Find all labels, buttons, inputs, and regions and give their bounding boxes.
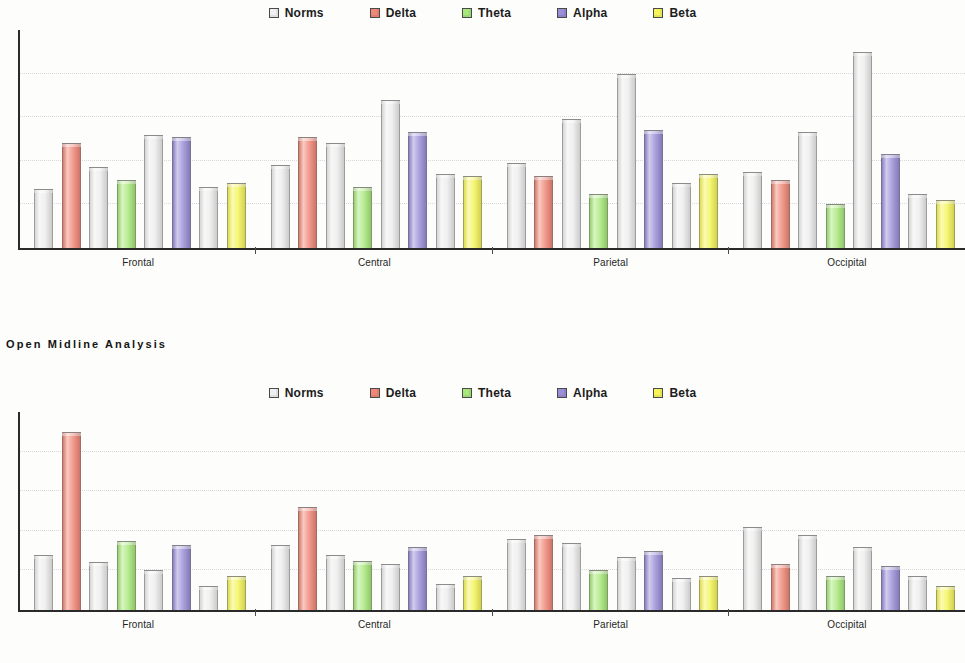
bar-alpha-frontal — [172, 137, 191, 248]
x-axis-label-central: Central — [256, 619, 492, 630]
bar-wrap — [904, 30, 932, 248]
bar-alpha-central — [408, 132, 427, 248]
bar-norms-parietal-delta — [507, 163, 526, 248]
midline-analysis-chart-1: Norms Delta Theta Alpha Beta FrontalCent… — [0, 0, 965, 275]
legend-item-alpha: Alpha — [557, 6, 607, 20]
bar-wrap — [876, 412, 904, 610]
bar-group-occipital: Occipital — [729, 30, 965, 248]
axis-tick — [728, 609, 729, 616]
bar-theta-parietal — [589, 194, 608, 249]
bar-wrap — [431, 412, 459, 610]
bar-wrap — [168, 412, 196, 610]
bar-wrap — [640, 30, 668, 248]
bar-wrap — [503, 412, 531, 610]
bar-wrap — [113, 412, 141, 610]
axis-tick — [492, 609, 493, 616]
bar-norms-central-alpha — [381, 100, 400, 248]
legend-label-alpha: Alpha — [573, 386, 607, 400]
bar-wrap — [668, 412, 696, 610]
bar-delta-occipital — [771, 564, 790, 610]
bar-wrap — [140, 412, 168, 610]
bar-wrap — [931, 30, 959, 248]
bar-alpha-occipital — [881, 154, 900, 248]
bar-wrap — [613, 30, 641, 248]
bar-delta-occipital — [771, 180, 790, 248]
bar-wrap — [766, 30, 794, 248]
bar-norms-central-theta — [326, 555, 345, 610]
bar-norms-central-beta — [436, 584, 455, 610]
bar-group-frontal: Frontal — [20, 412, 256, 610]
bar-theta-parietal — [589, 570, 608, 610]
legend-item-theta: Theta — [462, 6, 511, 20]
bar-wrap — [113, 30, 141, 248]
bars — [493, 412, 729, 610]
bar-wrap — [349, 412, 377, 610]
legend-swatch-theta — [462, 388, 472, 398]
bar-wrap — [140, 30, 168, 248]
bar-beta-frontal — [227, 183, 246, 248]
bar-norms-frontal-delta — [34, 189, 53, 248]
bar-beta-occipital — [936, 586, 955, 610]
bar-wrap — [821, 412, 849, 610]
legend-item-norms: Norms — [269, 386, 324, 400]
bar-wrap — [931, 412, 959, 610]
chart-2-plot-area: FrontalCentralParietalOccipital — [18, 412, 965, 612]
bar-wrap — [321, 412, 349, 610]
bar-wrap — [794, 412, 822, 610]
bar-norms-central-alpha — [381, 564, 400, 610]
legend-item-beta: Beta — [653, 6, 696, 20]
bars — [20, 412, 256, 610]
bars — [729, 412, 965, 610]
x-axis-label-frontal: Frontal — [20, 619, 256, 630]
bar-norms-frontal-alpha — [144, 135, 163, 248]
legend-label-theta: Theta — [478, 6, 511, 20]
legend-item-delta: Delta — [370, 386, 416, 400]
bar-alpha-parietal — [644, 551, 663, 610]
bar-norms-occipital-theta — [798, 535, 817, 610]
legend-swatch-beta — [653, 8, 663, 18]
legend-swatch-alpha — [557, 388, 567, 398]
bar-norms-central-beta — [436, 174, 455, 248]
chart-2-groups: FrontalCentralParietalOccipital — [20, 412, 965, 610]
bar-alpha-parietal — [644, 130, 663, 248]
x-axis-label-occipital: Occipital — [729, 257, 965, 268]
chart-1-legend: Norms Delta Theta Alpha Beta — [0, 0, 965, 26]
bar-wrap — [376, 30, 404, 248]
bars — [20, 30, 256, 248]
bar-norms-central-theta — [326, 143, 345, 248]
section-title: Open Midline Analysis — [6, 338, 167, 350]
legend-item-beta: Beta — [653, 386, 696, 400]
legend-label-delta: Delta — [386, 386, 416, 400]
bar-wrap — [459, 412, 487, 610]
bar-wrap — [195, 412, 223, 610]
bar-wrap — [376, 412, 404, 610]
bar-wrap — [876, 30, 904, 248]
bar-delta-central — [298, 507, 317, 610]
bar-norms-frontal-alpha — [144, 570, 163, 610]
bar-wrap — [613, 412, 641, 610]
bar-delta-central — [298, 137, 317, 248]
legend-swatch-norms — [269, 388, 279, 398]
bar-beta-frontal — [227, 576, 246, 610]
bar-norms-central-delta — [271, 545, 290, 610]
bar-beta-parietal — [699, 174, 718, 248]
bar-wrap — [321, 30, 349, 248]
legend-item-alpha: Alpha — [557, 386, 607, 400]
bar-wrap — [640, 412, 668, 610]
bar-wrap — [404, 412, 432, 610]
axis-tick — [492, 247, 493, 254]
bar-wrap — [849, 412, 877, 610]
bar-wrap — [266, 30, 294, 248]
legend-item-delta: Delta — [370, 6, 416, 20]
bar-wrap — [904, 412, 932, 610]
bar-norms-occipital-theta — [798, 132, 817, 248]
bar-norms-parietal-beta — [672, 578, 691, 610]
bar-wrap — [431, 30, 459, 248]
bar-group-central: Central — [256, 30, 492, 248]
legend-label-theta: Theta — [478, 386, 511, 400]
legend-swatch-delta — [370, 388, 380, 398]
x-axis-label-occipital: Occipital — [729, 619, 965, 630]
bar-wrap — [558, 30, 586, 248]
legend-item-norms: Norms — [269, 6, 324, 20]
bar-theta-occipital — [826, 576, 845, 610]
